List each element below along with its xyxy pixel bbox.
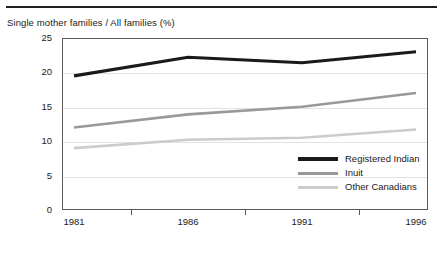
chart-title: Single mother families / All families (%… [7, 17, 175, 28]
x-axis-tick-label: 1991 [272, 216, 332, 227]
y-axis-tick-label: 10 [12, 135, 52, 146]
legend-item: Other Canadians [298, 180, 419, 194]
top-divider-rule [6, 6, 437, 8]
x-axis-tick-label: 1981 [44, 216, 104, 227]
y-axis-tick-label: 5 [12, 170, 52, 181]
series-line [74, 93, 416, 127]
chart-legend: Registered IndianInuitOther Canadians [298, 152, 419, 194]
x-axis-tick-label: 1986 [158, 216, 218, 227]
y-axis-tick-label: 15 [12, 101, 52, 112]
legend-swatch-icon [298, 172, 338, 175]
legend-swatch-icon [298, 186, 338, 189]
series-line [74, 130, 416, 149]
y-axis-tick-label: 20 [12, 66, 52, 77]
legend-item: Registered Indian [298, 152, 419, 166]
x-axis-tick-mark [245, 210, 246, 215]
legend-label: Other Canadians [345, 182, 417, 192]
legend-swatch-icon [298, 157, 338, 161]
series-line [74, 52, 416, 76]
legend-label: Inuit [345, 168, 363, 178]
y-axis-tick-label: 0 [12, 204, 52, 215]
legend-item: Inuit [298, 166, 419, 180]
x-axis-tick-mark [131, 210, 132, 215]
legend-label: Registered Indian [345, 154, 419, 164]
y-axis-tick-label: 25 [12, 32, 52, 43]
x-axis-tick-mark [359, 210, 360, 215]
x-axis-tick-label: 1996 [386, 216, 443, 227]
